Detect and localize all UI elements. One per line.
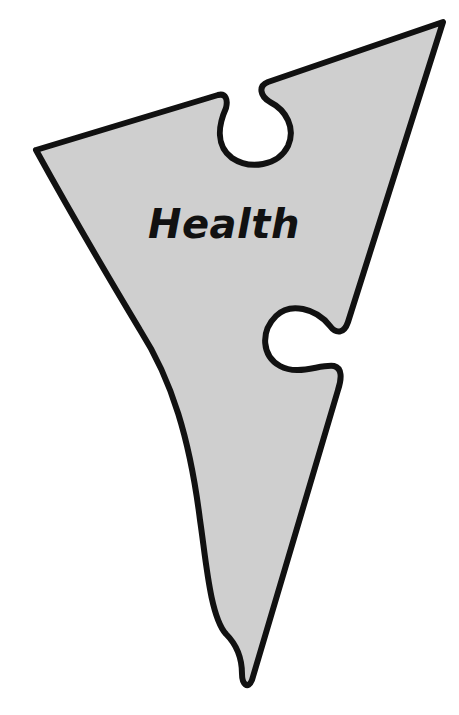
puzzle-piece-diagram bbox=[0, 0, 459, 715]
puzzle-piece-shape bbox=[36, 22, 443, 685]
health-label: Health bbox=[148, 200, 328, 248]
